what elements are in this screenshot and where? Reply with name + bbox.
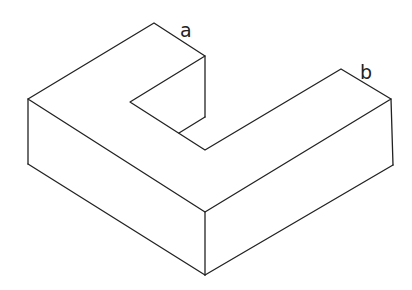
right-front-face	[205, 99, 393, 275]
label-b: b	[360, 61, 372, 83]
top-face	[28, 23, 391, 212]
left-front-face	[28, 99, 205, 275]
l-block-diagram: a b	[0, 0, 412, 290]
label-a: a	[180, 19, 192, 41]
inner-notch-wall	[179, 56, 205, 133]
